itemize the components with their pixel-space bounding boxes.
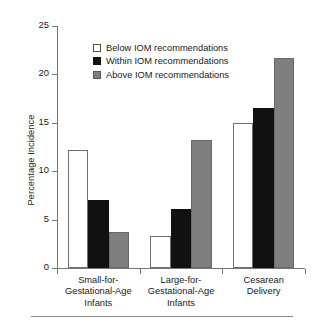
- y-axis-tick-label: 10: [39, 164, 49, 175]
- y-axis-tick: 5: [52, 220, 57, 221]
- y-axis-tick-label: 0: [44, 261, 49, 272]
- chart-figure: Percentage Incidence 0510152025 Below IO…: [0, 0, 313, 324]
- legend-label: Above IOM recommendations: [106, 70, 229, 80]
- bar-within-0: [88, 200, 109, 268]
- legend-swatch-below-icon: [93, 44, 101, 52]
- y-axis-title: Percentage Incidence: [26, 80, 36, 240]
- bar-above-1: [191, 140, 212, 268]
- y-axis-tick: 25: [52, 26, 57, 27]
- x-axis-category-2: CesareanDelivery: [209, 275, 313, 298]
- legend-item-above[interactable]: Above IOM recommendations: [93, 68, 229, 81]
- bar-within-1: [171, 209, 192, 268]
- x-axis-category-line: Delivery: [209, 286, 313, 297]
- y-axis-tick: 20: [52, 74, 57, 75]
- y-axis-tick-label: 25: [39, 19, 49, 30]
- legend-label: Below IOM recommendations: [106, 43, 228, 53]
- legend-swatch-above-icon: [93, 71, 101, 79]
- y-axis-tick-label: 15: [39, 116, 49, 127]
- bar-above-0: [109, 232, 130, 268]
- legend-swatch-within-icon: [93, 57, 101, 65]
- bar-below-1: [150, 236, 171, 268]
- x-axis-tick: [140, 269, 141, 274]
- y-axis-tick-label: 5: [44, 213, 49, 224]
- y-axis-tick: 10: [52, 171, 57, 172]
- x-axis-category-line: Cesarean: [209, 275, 313, 286]
- x-axis-tick: [222, 269, 223, 274]
- bar-below-2: [233, 123, 254, 268]
- bar-within-2: [253, 108, 274, 268]
- bar-below-0: [68, 150, 89, 268]
- chart-legend: Below IOM recommendationsWithin IOM reco…: [93, 41, 229, 82]
- y-axis-tick: 15: [52, 123, 57, 124]
- x-axis-line: [57, 268, 305, 269]
- legend-item-below[interactable]: Below IOM recommendations: [93, 41, 229, 54]
- legend-label: Within IOM recommendations: [106, 56, 228, 66]
- y-axis-tick-label: 20: [39, 67, 49, 78]
- bar-above-2: [274, 58, 295, 268]
- x-axis-tick: [305, 269, 306, 274]
- legend-item-within[interactable]: Within IOM recommendations: [93, 55, 229, 68]
- footer-rule: [31, 316, 293, 317]
- x-axis-category-line: Infants: [126, 298, 236, 309]
- y-axis-line: [57, 26, 58, 269]
- x-axis-tick: [57, 269, 58, 274]
